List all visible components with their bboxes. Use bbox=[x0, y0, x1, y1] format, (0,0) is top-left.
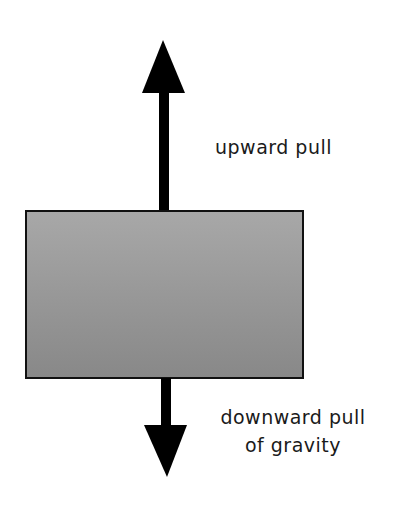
upward-arrow bbox=[142, 40, 185, 213]
downward-pull-label-line1: downward pull bbox=[200, 408, 386, 427]
object-box bbox=[26, 211, 303, 378]
downward-arrow bbox=[144, 378, 187, 477]
upward-pull-label: upward pull bbox=[215, 138, 332, 157]
downward-pull-label-line2: of gravity bbox=[200, 436, 386, 455]
force-diagram bbox=[0, 0, 394, 505]
